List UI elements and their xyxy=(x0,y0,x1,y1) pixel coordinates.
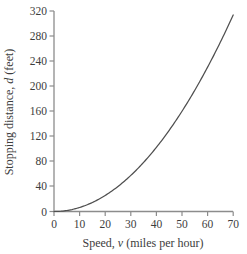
x-axis-title-suffix: (miles per hour) xyxy=(123,236,203,250)
y-tick-label: 80 xyxy=(36,155,48,167)
y-tick-label: 280 xyxy=(30,30,48,42)
y-tick-label: 120 xyxy=(30,130,48,142)
x-tick-label: 50 xyxy=(176,218,188,230)
x-axis-title: Speed, v (miles per hour) xyxy=(83,236,204,250)
x-tick-label: 20 xyxy=(99,218,111,230)
chart-canvas: 320 280 240 200 160 120 80 40 0 0 10 20 … xyxy=(0,0,247,254)
y-tick-label: 320 xyxy=(30,5,48,17)
y-tick-label: 160 xyxy=(30,105,48,117)
x-axis-title-prefix: Speed, xyxy=(83,236,118,250)
x-tick-label: 70 xyxy=(227,218,239,230)
y-tick-label: 0 xyxy=(41,206,47,218)
stopping-distance-chart: 320 280 240 200 160 120 80 40 0 0 10 20 … xyxy=(0,0,247,254)
y-axis-title-suffix: (feet) xyxy=(2,49,16,78)
y-tick-label: 200 xyxy=(30,80,48,92)
y-axis-title-prefix: Stopping distance, xyxy=(2,84,16,176)
x-tick-label: 0 xyxy=(51,218,57,230)
y-tick-label: 240 xyxy=(30,55,48,67)
x-tick-label: 30 xyxy=(125,218,137,230)
y-axis-title: Stopping distance, d (feet) xyxy=(2,49,16,176)
y-tick-label: 40 xyxy=(36,180,48,192)
x-tick-label: 60 xyxy=(202,218,214,230)
x-tick-label: 10 xyxy=(74,218,86,230)
x-tick-label: 40 xyxy=(151,218,163,230)
